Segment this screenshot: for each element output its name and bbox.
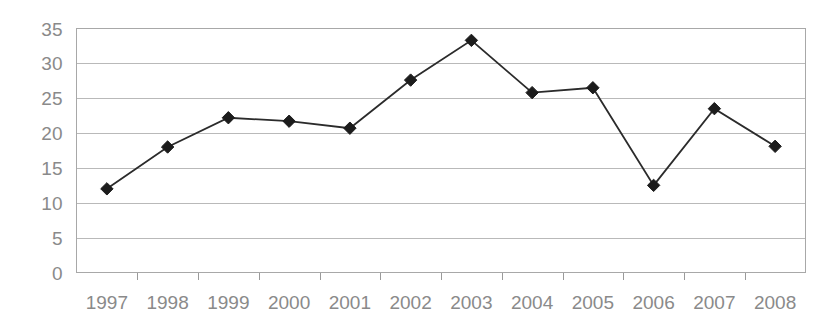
x-tick-label: 2005 <box>572 292 614 313</box>
y-tick-label: 5 <box>52 228 63 249</box>
y-tick-label: 10 <box>41 193 62 214</box>
y-tick-label: 30 <box>41 53 62 74</box>
x-tick-label: 1999 <box>207 292 249 313</box>
x-tick-label: 2001 <box>329 292 371 313</box>
x-tick-label: 2003 <box>450 292 492 313</box>
x-tick-label: 2004 <box>511 292 554 313</box>
chart-background <box>0 0 837 329</box>
chart-canvas: 05101520253035 1997199819992000200120022… <box>0 0 837 329</box>
x-tick-label: 2000 <box>268 292 310 313</box>
y-tick-label: 35 <box>41 19 62 40</box>
y-tick-label: 0 <box>52 263 63 284</box>
x-tick-label: 1997 <box>86 292 128 313</box>
x-tick-label: 1998 <box>146 292 188 313</box>
x-tick-label: 2002 <box>389 292 431 313</box>
x-tick-label: 2008 <box>754 292 796 313</box>
x-tick-label: 2006 <box>632 292 674 313</box>
y-tick-label: 20 <box>41 123 62 144</box>
x-tick-label: 2007 <box>693 292 735 313</box>
line-chart: 05101520253035 1997199819992000200120022… <box>0 0 837 329</box>
y-tick-label: 15 <box>41 158 62 179</box>
y-tick-label: 25 <box>41 88 62 109</box>
